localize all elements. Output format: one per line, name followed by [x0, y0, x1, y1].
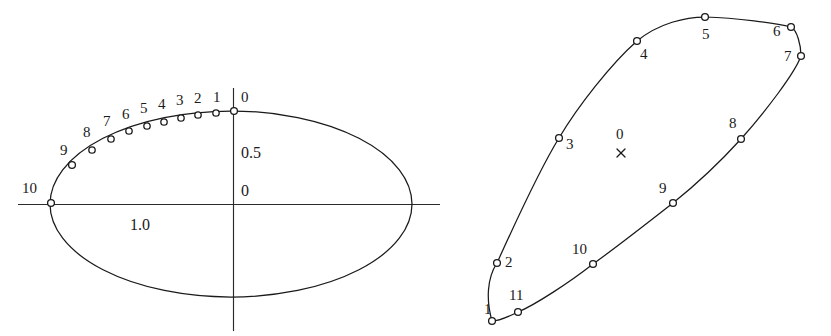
left-axis-label-1.0: 1.0 [130, 216, 150, 233]
right-panel: 0 1 2 3 4 5 6 7 8 9 10 11 [484, 14, 804, 325]
right-point-marker-7 [798, 53, 805, 60]
right-point-label-10: 10 [572, 241, 587, 257]
right-point-marker-2 [494, 260, 501, 267]
left-point-marker-1 [213, 110, 219, 116]
right-centroid-cross-icon [617, 149, 625, 157]
right-point-label-5: 5 [702, 26, 710, 42]
right-point-label-3: 3 [566, 136, 574, 152]
right-point-label-6: 6 [773, 23, 781, 39]
figure-canvas: 0.5 0 1.0 0 1 2 3 4 5 6 7 8 9 [0, 0, 831, 336]
left-point-marker-0 [231, 108, 238, 115]
right-point-marker-10 [590, 261, 597, 268]
right-point-marker-1 [489, 318, 496, 325]
right-point-marker-6 [788, 24, 795, 31]
right-point-label-1: 1 [484, 301, 492, 317]
left-point-label-8: 8 [83, 124, 91, 140]
left-point-marker-9 [69, 162, 76, 169]
left-point-marker-2 [195, 112, 201, 118]
left-point-marker-4 [161, 119, 167, 125]
right-point-label-8: 8 [729, 115, 737, 131]
right-point-marker-3 [556, 135, 563, 142]
left-point-label-2: 2 [194, 90, 202, 106]
right-centroid-label-0: 0 [616, 126, 624, 142]
left-panel: 0.5 0 1.0 0 1 2 3 4 5 6 7 8 9 [18, 88, 440, 331]
right-point-marker-8 [738, 136, 745, 143]
right-point-marker-4 [634, 38, 641, 45]
figure-root: 0.5 0 1.0 0 1 2 3 4 5 6 7 8 9 [0, 0, 831, 336]
left-point-label-1: 1 [213, 89, 221, 105]
left-point-marker-8 [89, 147, 95, 153]
left-point-marker-3 [178, 115, 184, 121]
right-closed-curve [488, 17, 801, 321]
left-point-label-3: 3 [176, 92, 184, 108]
left-point-label-7: 7 [103, 113, 111, 129]
right-point-label-7: 7 [784, 48, 792, 64]
right-point-label-4: 4 [640, 46, 648, 62]
right-point-marker-11 [515, 309, 522, 316]
right-point-label-9: 9 [659, 180, 667, 196]
left-axis-label-0.5: 0.5 [241, 144, 261, 161]
left-point-label-6: 6 [122, 106, 130, 122]
right-point-marker-5 [702, 14, 709, 21]
left-point-label-5: 5 [140, 100, 148, 116]
left-point-label-0: 0 [241, 89, 249, 105]
left-point-label-10: 10 [22, 180, 37, 196]
left-point-marker-7 [108, 136, 114, 142]
right-point-marker-9 [670, 200, 677, 207]
left-point-marker-6 [126, 128, 132, 134]
right-point-label-11: 11 [509, 287, 523, 303]
left-point-marker-5 [144, 123, 150, 129]
left-point-marker-10 [48, 200, 55, 207]
left-axis-label-0: 0 [241, 182, 249, 199]
right-point-label-2: 2 [505, 254, 513, 270]
left-point-label-9: 9 [60, 142, 68, 158]
left-point-label-4: 4 [158, 96, 166, 112]
